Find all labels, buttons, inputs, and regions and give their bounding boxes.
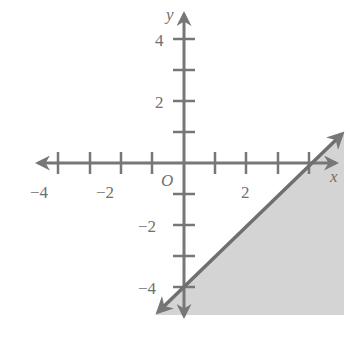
y-tick-label-2: 2 <box>155 93 164 112</box>
x-axis-label: x <box>329 167 338 186</box>
y-axis-label: y <box>164 5 174 24</box>
y-tick-label-neg4: −4 <box>138 279 157 298</box>
x-tick-label-neg2: −2 <box>96 183 114 202</box>
origin-label: O <box>161 171 173 190</box>
x-tick-label-2: 2 <box>241 183 250 202</box>
x-tick-label-neg4: −4 <box>30 183 49 202</box>
y-tick-label-neg2: −2 <box>138 217 156 236</box>
y-tick-label-4: 4 <box>155 31 164 50</box>
coordinate-plane: y x O −4 −2 2 4 2 −2 −4 <box>0 0 352 337</box>
